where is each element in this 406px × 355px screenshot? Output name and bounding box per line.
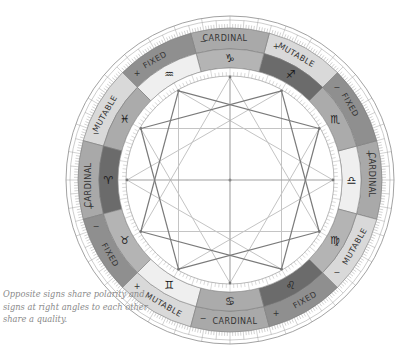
gemini-glyph-icon: ♊ <box>164 279 174 292</box>
quality-label: CARDINAL <box>367 153 376 198</box>
polarity-sign: − <box>93 129 100 138</box>
cancer-glyph-icon: ♋ <box>225 295 235 308</box>
polarity-sign: + <box>88 202 95 211</box>
polarity-sign: − <box>333 268 340 277</box>
scorpio-glyph-icon: ♏ <box>330 113 340 126</box>
polarity-sign: + <box>134 69 141 78</box>
quality-label: CARDINAL <box>212 317 257 326</box>
polarity-sign: − <box>333 83 340 92</box>
quality-label: CARDINAL <box>203 34 248 43</box>
sagittarius-glyph-icon: ♐ <box>286 68 296 81</box>
leo-glyph-icon: ♌ <box>286 279 296 292</box>
taurus-glyph-icon: ♉ <box>120 234 130 247</box>
virgo-glyph-icon: ♍ <box>330 234 340 247</box>
pisces-glyph-icon: ♓ <box>120 113 130 126</box>
polarity-sign: − <box>200 314 207 323</box>
polarity-sign: + <box>366 149 373 158</box>
polarity-sign: − <box>200 37 207 46</box>
polarity-sign: + <box>273 309 280 318</box>
quality-label: CARDINAL <box>84 162 93 207</box>
capricorn-glyph-icon: ♑ <box>225 52 235 65</box>
aquarius-glyph-icon: ♒ <box>164 68 174 81</box>
caption-text: Opposite signs share polarity and signs … <box>3 288 153 326</box>
polarity-sign: + <box>273 42 280 51</box>
polarity-sign: − <box>93 222 100 231</box>
aries-glyph-icon: ♈ <box>104 174 114 187</box>
libra-glyph-icon: ♎ <box>347 174 357 187</box>
